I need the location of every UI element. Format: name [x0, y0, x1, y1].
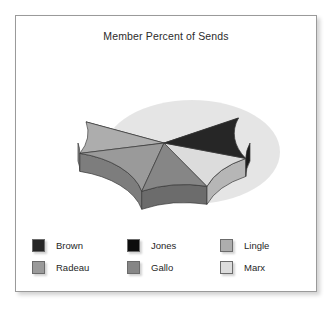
legend-item-jones[interactable]: Jones — [127, 234, 217, 256]
chart-frame: Member Percent of Sends Brown Radeau Jon… — [15, 15, 317, 292]
legend-item-radeau[interactable]: Radeau — [32, 256, 122, 278]
legend-item-lingle[interactable]: Lingle — [220, 234, 310, 256]
legend-swatch-marx — [220, 261, 233, 274]
legend-label-marx: Marx — [244, 262, 265, 273]
legend-item-gallo[interactable]: Gallo — [127, 256, 217, 278]
legend: Brown Radeau Jones Gallo Lingle — [32, 234, 302, 280]
legend-item-marx[interactable]: Marx — [220, 256, 310, 278]
legend-label-jones: Jones — [151, 240, 176, 251]
legend-swatch-jones — [127, 239, 140, 252]
legend-label-lingle: Lingle — [244, 240, 269, 251]
legend-label-gallo: Gallo — [151, 262, 173, 273]
pie-chart-svg — [16, 40, 316, 230]
legend-swatch-lingle — [220, 239, 233, 252]
legend-swatch-brown — [32, 239, 45, 252]
legend-item-brown[interactable]: Brown — [32, 234, 122, 256]
legend-column-1: Brown Radeau — [32, 234, 122, 278]
legend-label-radeau: Radeau — [56, 262, 89, 273]
legend-swatch-gallo — [127, 261, 140, 274]
legend-column-2: Jones Gallo — [127, 234, 217, 278]
pie-chart — [16, 40, 316, 230]
legend-label-brown: Brown — [56, 240, 83, 251]
legend-column-3: Lingle Marx — [220, 234, 310, 278]
legend-swatch-radeau — [32, 261, 45, 274]
